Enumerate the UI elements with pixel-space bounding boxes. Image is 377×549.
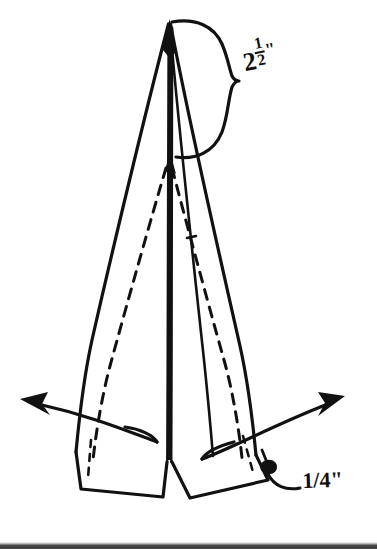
right-unfold-arrow-shaft [202,404,328,459]
top-dimension-label: 212" [239,33,279,76]
bottom-leader-knot [260,460,277,474]
left-dashed-fold-line [93,168,166,460]
bottom-scan-band [0,542,377,549]
right-wing-flap-outline [172,455,268,498]
left-unfold-arrow-head [20,392,50,415]
diagram-page: 212" 1/4" [0,0,377,549]
bottom-leader-line [268,474,300,489]
center-small-tick [187,236,196,238]
bottom-knot-tail [262,450,266,460]
right-unfold-arrow-head [318,392,345,416]
left-outer-edge [76,24,169,452]
left-flap-dashed-tick [88,440,91,478]
bottom-dimension-label: 1/4" [302,469,343,492]
right-outer-edge [171,24,257,455]
